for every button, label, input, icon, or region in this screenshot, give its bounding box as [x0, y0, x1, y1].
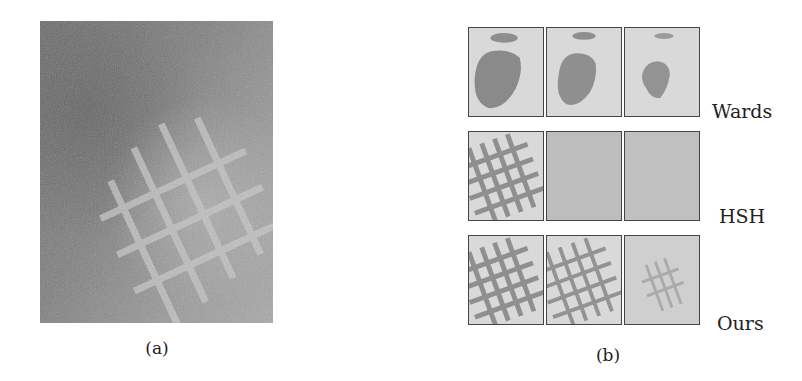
photo-mesh-image [40, 21, 273, 323]
caption-a: (a) [127, 338, 187, 358]
ours-cell-3 [624, 235, 700, 325]
wards-cell-3 [624, 27, 700, 117]
hsh-cell-2 [546, 131, 622, 221]
ours-cell-2 [546, 235, 622, 325]
row-label-wards: Wards [712, 100, 772, 122]
wards-cell-2 [546, 27, 622, 117]
hsh-cell-3 [624, 131, 700, 221]
hsh-cell-1 [468, 131, 544, 221]
ours-cell-1 [468, 235, 544, 325]
caption-b: (b) [578, 345, 638, 365]
wards-cell-1 [468, 27, 544, 117]
row-label-hsh: HSH [719, 205, 765, 227]
row-label-ours: Ours [717, 312, 764, 334]
